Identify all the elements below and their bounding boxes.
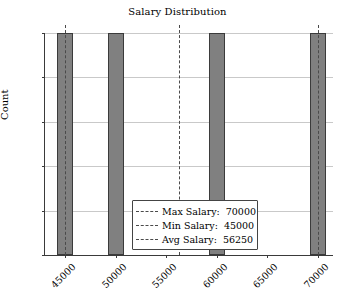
x-tick-mark bbox=[116, 255, 117, 258]
chart-figure: Salary Distribution Count 0.00.20.40.60.… bbox=[0, 0, 355, 301]
legend-row: Min Salary:45000 bbox=[136, 218, 253, 232]
reference-line-min-salary bbox=[65, 25, 66, 255]
x-tick-mark bbox=[318, 255, 319, 258]
x-tick-mark bbox=[166, 255, 167, 258]
gridline-horizontal bbox=[45, 33, 333, 34]
x-tick-mark bbox=[217, 255, 218, 258]
legend-row: Avg Salary:56250 bbox=[136, 232, 253, 246]
legend-line-sample-icon bbox=[136, 239, 158, 240]
legend-label: Avg Salary: bbox=[162, 234, 217, 245]
y-tick-mark bbox=[42, 211, 45, 212]
y-tick-mark bbox=[42, 166, 45, 167]
x-tick-mark bbox=[65, 255, 66, 258]
gridline-horizontal bbox=[45, 166, 333, 167]
gridline-horizontal bbox=[45, 122, 333, 123]
reference-line-max-salary bbox=[318, 25, 319, 255]
legend-row: Max Salary:70000 bbox=[136, 204, 253, 218]
legend-value: 45000 bbox=[218, 220, 254, 231]
y-tick-mark bbox=[42, 33, 45, 34]
legend-value: 56250 bbox=[217, 234, 253, 245]
legend-value: 70000 bbox=[220, 206, 256, 217]
chart-legend: Max Salary:70000Min Salary:45000Avg Sala… bbox=[132, 200, 258, 250]
legend-line-sample-icon bbox=[136, 211, 158, 212]
x-tick-mark bbox=[267, 255, 268, 258]
legend-line-sample-icon bbox=[136, 225, 158, 226]
x-tick-label: 45000 bbox=[0, 261, 78, 301]
legend-label: Min Salary: bbox=[162, 220, 218, 231]
y-tick-mark bbox=[42, 77, 45, 78]
y-tick-mark bbox=[42, 122, 45, 123]
y-axis-label: Count bbox=[0, 89, 10, 120]
gridline-horizontal bbox=[45, 77, 333, 78]
legend-label: Max Salary: bbox=[162, 206, 220, 217]
chart-title: Salary Distribution bbox=[0, 6, 355, 17]
bar bbox=[108, 33, 124, 255]
y-tick-mark bbox=[42, 255, 45, 256]
